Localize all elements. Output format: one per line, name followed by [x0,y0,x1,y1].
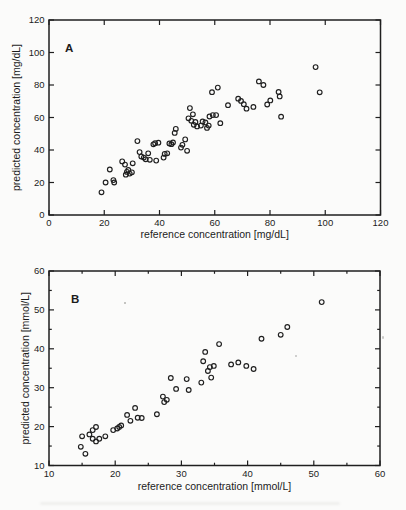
data-point [146,151,151,156]
x-axis-label: reference concentration [mg/dL] [141,228,289,240]
scan-smudge [40,502,340,505]
data-point [313,65,318,70]
data-point [279,114,284,119]
data-point [215,85,220,90]
data-point [209,375,214,380]
y-axis-label: predicted concentration [mg/dL] [10,44,22,191]
scan-speck [124,302,126,304]
data-point [191,112,196,117]
x-tick-label: 40 [154,217,165,228]
x-tick-label: 120 [373,217,389,228]
y-axis-label: predicted concentration [mmol/L] [19,292,31,444]
y-tick-label: 30 [34,382,45,393]
data-point [226,103,231,108]
data-point [185,148,190,153]
data-point [155,412,160,417]
panel-label: A [65,42,73,54]
data-point [107,167,112,172]
data-point [97,436,102,441]
data-point [201,359,206,364]
y-tick-label: 50 [34,304,45,315]
data-point [99,190,104,195]
data-point [261,83,266,88]
x-tick-label: 60 [209,217,220,228]
data-point [156,140,161,145]
data-point [285,325,290,330]
x-axis-label: reference concentration [mmol/L] [138,480,292,492]
data-point [257,79,262,84]
scan-speck [295,355,297,357]
data-point [183,137,188,142]
data-point [217,342,222,347]
data-point [184,377,189,382]
x-tick-label: 20 [99,217,110,228]
y-tick-label: 40 [34,144,45,155]
scatter-plot-panel-a: 020406080100120020406080100120reference … [0,0,406,255]
panel-label: B [71,293,79,305]
y-tick-label: 10 [34,460,45,471]
data-point [94,425,99,430]
x-tick-label: 60 [375,468,386,479]
data-point [123,162,128,167]
y-tick-label: 0 [39,209,44,220]
scan-speck [382,336,384,339]
data-point [199,380,204,385]
y-tick-label: 20 [34,421,45,432]
data-point [78,444,83,449]
data-point [277,94,282,99]
y-tick-label: 60 [34,112,45,123]
x-tick-label: 40 [242,468,253,479]
data-point [168,376,173,381]
data-point [268,98,273,103]
data-point [319,300,324,305]
data-point [244,364,249,369]
data-point [174,387,179,392]
data-point [259,336,264,341]
y-tick-label: 20 [34,177,45,188]
data-point [251,367,256,372]
data-point [214,113,219,118]
x-tick-label: 100 [317,217,333,228]
x-tick-label: 80 [265,217,276,228]
data-point [229,362,234,367]
y-tick-label: 40 [34,343,45,354]
x-tick-label: 20 [110,468,121,479]
data-point [218,121,223,126]
scanned-figure-page: 020406080100120020406080100120reference … [0,0,406,510]
data-point [87,432,92,437]
data-point [128,418,133,423]
data-point [83,451,88,456]
data-point [317,90,322,95]
data-point [203,350,208,355]
data-point [154,158,159,163]
data-point [80,434,85,439]
x-tick-label: 30 [176,468,187,479]
data-point [103,434,108,439]
data-point [103,180,108,185]
data-point [244,106,249,111]
data-point [188,106,193,111]
data-point [241,102,246,107]
scatter-plot-panel-b: 102030405060102030405060reference concen… [0,255,406,510]
data-point [135,139,140,144]
data-point [210,90,215,95]
data-point [130,161,135,166]
y-tick-label: 120 [29,14,45,25]
y-tick-label: 60 [34,265,45,276]
data-point [251,105,256,110]
data-point [133,406,138,411]
y-tick-label: 80 [34,79,45,90]
x-tick-label: 0 [46,217,51,228]
data-point [236,360,241,365]
y-tick-label: 100 [29,47,45,58]
data-point [125,413,130,418]
data-point [186,388,191,393]
data-point [278,332,283,337]
x-tick-label: 50 [309,468,320,479]
x-tick-label: 10 [44,468,55,479]
